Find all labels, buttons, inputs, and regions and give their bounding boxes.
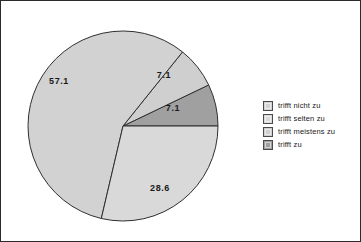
- pie-slices: [28, 31, 218, 221]
- legend-item-trifft-zu[interactable]: trifft zu: [263, 138, 359, 151]
- pie-label-trifft-meistens-zu: 7.1: [157, 70, 171, 80]
- legend-swatch-icon: [263, 114, 273, 124]
- legend-item-label: trifft selten zu: [278, 114, 325, 124]
- legend-swatch-icon: [263, 101, 273, 111]
- pie-label-trifft-zu: 7.1: [166, 103, 180, 113]
- chart-legend: trifft nicht zu trifft selten zu trifft …: [263, 99, 359, 151]
- legend-item-trifft-nicht-zu[interactable]: trifft nicht zu: [263, 99, 359, 112]
- chart-frame: 7.1 7.1 57.1 28.6 trifft nicht zu trifft…: [0, 0, 361, 242]
- legend-swatch-icon: [263, 127, 273, 137]
- pie-chart-svg: 7.1 7.1 57.1 28.6: [1, 1, 251, 241]
- legend-swatch-icon: [263, 140, 273, 150]
- legend-item-label: trifft meistens zu: [278, 127, 335, 137]
- legend-item-label: trifft zu: [278, 140, 302, 150]
- legend-item-label: trifft nicht zu: [278, 101, 321, 111]
- pie-label-trifft-nicht-zu: 57.1: [49, 76, 69, 86]
- pie-chart-area: 7.1 7.1 57.1 28.6: [1, 1, 251, 241]
- legend-item-trifft-meistens-zu[interactable]: trifft meistens zu: [263, 125, 359, 138]
- legend-item-trifft-selten-zu[interactable]: trifft selten zu: [263, 112, 359, 125]
- pie-label-trifft-selten-zu: 28.6: [150, 183, 170, 193]
